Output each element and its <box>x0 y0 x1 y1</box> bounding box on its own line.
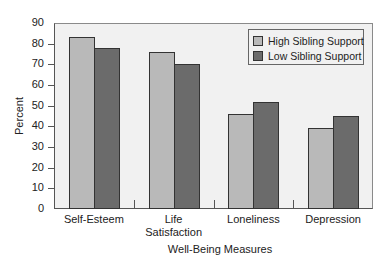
y-tick-label: 20 <box>20 162 44 173</box>
y-tick <box>48 64 54 65</box>
y-tick-label: 30 <box>20 141 44 152</box>
y-tick <box>48 106 54 107</box>
legend-swatch-low <box>253 51 263 61</box>
bar-low-depression <box>333 116 359 209</box>
x-axis-label: Well-Being Measures <box>160 243 280 255</box>
y-tick-label: 0 <box>20 203 44 214</box>
bar-low-life-satisfaction <box>174 64 200 209</box>
x-category-label: Self-Esteem <box>54 213 134 226</box>
x-category-label: LifeSatisfaction <box>134 213 214 239</box>
y-tick-label: 80 <box>20 38 44 49</box>
legend-swatch-high <box>253 36 263 46</box>
x-tick <box>134 200 135 209</box>
bar-high-loneliness <box>228 114 254 209</box>
y-tick <box>48 147 54 148</box>
legend-label-high: High Sibling Support <box>268 35 364 47</box>
legend-item-high: High Sibling Support <box>253 33 359 48</box>
x-category-label: Depression <box>293 213 373 226</box>
y-tick-label: 10 <box>20 182 44 193</box>
x-tick <box>214 200 215 209</box>
y-tick-label: 90 <box>20 17 44 28</box>
bar-high-depression <box>308 128 334 209</box>
bar-high-self-esteem <box>69 37 95 209</box>
bar-low-self-esteem <box>94 48 120 209</box>
y-tick <box>48 168 54 169</box>
bar-high-life-satisfaction <box>149 52 175 209</box>
y-tick <box>48 188 54 189</box>
x-tick <box>293 200 294 209</box>
x-category-label: Loneliness <box>213 213 293 226</box>
legend-label-low: Low Sibling Support <box>268 50 361 62</box>
legend-item-low: Low Sibling Support <box>253 48 359 63</box>
y-tick <box>48 85 54 86</box>
y-axis-label: Percent <box>13 91 25 141</box>
y-tick-label: 60 <box>20 79 44 90</box>
y-tick-label: 70 <box>20 58 44 69</box>
y-tick <box>48 126 54 127</box>
y-tick <box>48 44 54 45</box>
bar-low-loneliness <box>253 102 279 209</box>
legend: High Sibling Support Low Sibling Support <box>248 29 364 65</box>
